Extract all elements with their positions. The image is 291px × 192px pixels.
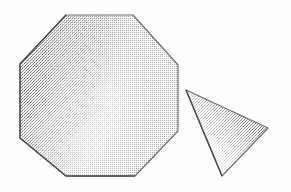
scan-canvas (0, 0, 291, 192)
shape-drawing (0, 0, 291, 192)
triangle-halftone (0, 0, 291, 192)
triangle-shape (0, 0, 291, 192)
